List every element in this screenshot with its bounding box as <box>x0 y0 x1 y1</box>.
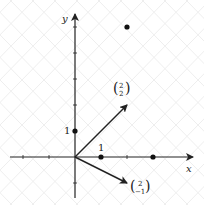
background-grid <box>0 0 204 205</box>
point <box>72 128 77 133</box>
point <box>98 154 103 159</box>
y-axis-label: y <box>61 13 68 24</box>
grid-line <box>0 0 188 205</box>
x-tick-label-1: 1 <box>98 142 104 153</box>
grid-line <box>0 0 166 205</box>
grid-line <box>0 0 188 205</box>
grid-line <box>142 0 204 205</box>
paren-left: ( <box>113 80 118 96</box>
vector-top: 2 <box>138 180 142 188</box>
grid-line <box>0 0 12 205</box>
grid-line <box>32 0 204 205</box>
grid-line <box>0 0 166 205</box>
x-axis-label: x <box>186 163 192 174</box>
grid-line <box>10 0 204 205</box>
grid-line <box>54 0 204 205</box>
grid-line <box>10 0 204 205</box>
grid-line <box>0 0 100 205</box>
grid-line <box>54 0 204 205</box>
paren-right: ) <box>145 178 150 194</box>
grid-line <box>0 0 100 205</box>
grid-line <box>186 0 204 205</box>
grid-line <box>0 0 34 205</box>
coordinate-plane: x y 1 1 ( 2 2 ) ( 2 −1 ) <box>0 0 204 205</box>
grid-line <box>0 0 12 205</box>
grid-line <box>76 0 204 205</box>
point <box>124 24 129 29</box>
vector-bottom: −1 <box>135 188 145 196</box>
vector-bottom: 2 <box>119 90 123 98</box>
grid-line <box>186 0 204 205</box>
grid-line <box>76 0 204 205</box>
vector-label-2-2: ( 2 2 ) <box>113 80 130 98</box>
vector-top: 2 <box>119 82 123 90</box>
grid-line <box>0 0 34 205</box>
point <box>150 154 155 159</box>
grid-line <box>142 0 204 205</box>
y-tick-label-1: 1 <box>64 125 70 136</box>
vector-label-2-neg1: ( 2 −1 ) <box>130 178 150 196</box>
grid-line <box>32 0 204 205</box>
paren-right: ) <box>125 80 130 96</box>
